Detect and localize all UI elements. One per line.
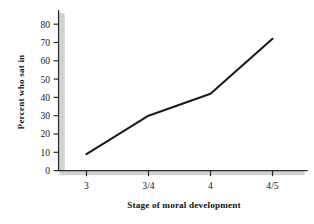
line-chart: 0 10 20 30 40 50 60 70 80 3 3/4 4 4/5 St… xyxy=(0,0,314,224)
y-axis-shadow xyxy=(60,13,65,171)
x-axis-title: Stage of moral development xyxy=(127,200,241,210)
x-tick-label: 4/5 xyxy=(266,180,278,191)
x-tick-label: 3 xyxy=(84,180,89,191)
y-tick-label: 70 xyxy=(40,37,50,48)
y-tick-label: 30 xyxy=(40,110,50,121)
y-axis-title: Percent who sat in xyxy=(16,55,26,130)
y-tick-label: 0 xyxy=(45,165,50,176)
y-tick-label: 80 xyxy=(40,19,50,30)
y-axis-tick-labels: 0 10 20 30 40 50 60 70 80 xyxy=(40,19,50,176)
x-tick-label: 4 xyxy=(208,180,213,191)
chart-figure: 0 10 20 30 40 50 60 70 80 3 3/4 4 4/5 St… xyxy=(0,0,314,224)
y-tick-label: 10 xyxy=(40,147,50,158)
x-tick-label: 3/4 xyxy=(142,180,154,191)
y-tick-label: 60 xyxy=(40,55,50,66)
y-tick-label: 40 xyxy=(40,92,50,103)
y-tick-label: 50 xyxy=(40,74,50,85)
y-tick-label: 20 xyxy=(40,128,50,139)
